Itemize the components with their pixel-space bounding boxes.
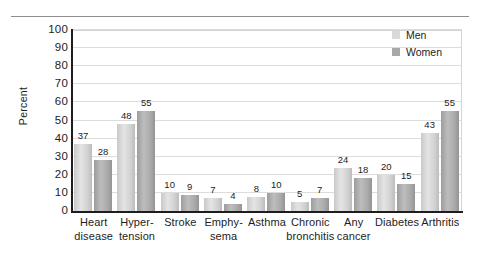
- top-divider-rule: [11, 16, 469, 17]
- bar-group: 2418: [333, 30, 376, 211]
- bar-group: 4855: [116, 30, 159, 211]
- bar-value-label: 5: [297, 189, 302, 199]
- y-tick-label-60: 60: [32, 96, 68, 108]
- x-category-label: Arthritis: [403, 216, 477, 230]
- bar-group: 109: [160, 30, 203, 211]
- bar-group: 3728: [73, 30, 116, 211]
- bar-value-label: 55: [444, 98, 455, 108]
- bar-women[interactable]: 15: [397, 184, 415, 211]
- bar-women[interactable]: 55: [441, 111, 459, 211]
- bar-men[interactable]: 37: [74, 144, 92, 211]
- y-tick-label-90: 90: [32, 42, 68, 54]
- bar-value-label: 18: [358, 165, 369, 175]
- bar-value-label: 43: [424, 120, 435, 130]
- bar-value-label: 7: [317, 185, 322, 195]
- bar-women[interactable]: 55: [137, 111, 155, 211]
- bar-value-label: 4: [230, 191, 235, 201]
- y-tick-label-50: 50: [32, 115, 68, 127]
- bar-women[interactable]: 18: [354, 178, 372, 211]
- y-axis-title: Percent: [17, 61, 29, 151]
- y-tick-label-80: 80: [32, 60, 68, 72]
- bar-group: 810: [246, 30, 289, 211]
- bar-value-label: 37: [78, 131, 89, 141]
- y-tick-label-40: 40: [32, 133, 68, 145]
- legend-item-women[interactable]: Women: [392, 45, 472, 59]
- bar-men[interactable]: 8: [247, 197, 265, 211]
- bar-value-label: 20: [381, 162, 392, 172]
- bar-value-label: 48: [121, 111, 132, 121]
- legend-item-men[interactable]: Men: [392, 28, 472, 42]
- bar-women[interactable]: 7: [311, 198, 329, 211]
- legend-label-men: Men: [406, 30, 426, 41]
- y-axis-line: [71, 29, 73, 213]
- y-tick-label-20: 20: [32, 169, 68, 181]
- bar-value-label: 10: [271, 180, 282, 190]
- bar-men[interactable]: 10: [161, 193, 179, 211]
- bar-value-label: 24: [338, 155, 349, 165]
- y-tick-label-30: 30: [32, 151, 68, 163]
- bar-women[interactable]: 9: [181, 195, 199, 211]
- x-axis-line: [71, 211, 463, 213]
- bar-women[interactable]: 4: [224, 204, 242, 211]
- bar-value-label: 9: [187, 182, 192, 192]
- y-tick-label-0: 0: [32, 205, 68, 217]
- y-tick-label-100: 100: [32, 24, 68, 36]
- bar-group: 57: [290, 30, 333, 211]
- bar-group: 74: [203, 30, 246, 211]
- bar-men[interactable]: 20: [377, 175, 395, 211]
- bar-men[interactable]: 5: [291, 202, 309, 211]
- y-tick-label-70: 70: [32, 78, 68, 90]
- bar-value-label: 8: [254, 184, 259, 194]
- bar-value-label: 55: [141, 98, 152, 108]
- y-tick-label-10: 10: [32, 187, 68, 199]
- legend-label-women: Women: [406, 47, 442, 58]
- bar-men[interactable]: 48: [117, 124, 135, 211]
- bar-chart-figure: 372848551097481057241820154355 010203040…: [0, 0, 480, 265]
- legend-swatch-women-icon: [392, 48, 400, 56]
- bar-value-label: 7: [210, 185, 215, 195]
- bar-men[interactable]: 43: [421, 133, 439, 211]
- bar-men[interactable]: 7: [204, 198, 222, 211]
- legend-swatch-men-icon: [392, 31, 400, 39]
- bar-men[interactable]: 24: [334, 168, 352, 211]
- bar-value-label: 10: [164, 180, 175, 190]
- bar-value-label: 15: [401, 171, 412, 181]
- bar-value-label: 28: [98, 147, 109, 157]
- chart-legend: Men Women: [392, 28, 472, 62]
- bar-women[interactable]: 10: [267, 193, 285, 211]
- bar-women[interactable]: 28: [94, 160, 112, 211]
